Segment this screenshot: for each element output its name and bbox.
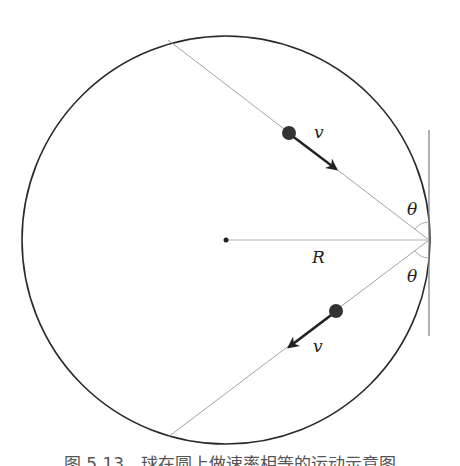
- bounce-diagram: v v θ θ R: [0, 0, 460, 466]
- theta-label-top: θ: [407, 199, 417, 219]
- theta-arc-top: [415, 222, 429, 229]
- velocity-label-bottom: v: [313, 336, 323, 356]
- figure-caption: 图 5.13 球在圆上做速率相等的运动示意图: [0, 452, 460, 466]
- radius-label: R: [311, 247, 325, 267]
- incoming-ball: [282, 126, 296, 140]
- theta-label-bottom: θ: [407, 266, 417, 286]
- outgoing-velocity-arrow: [289, 313, 334, 347]
- velocity-label-top: v: [314, 122, 324, 142]
- theta-arc-bottom: [415, 251, 429, 258]
- center-dot: [224, 238, 229, 243]
- outgoing-ball: [329, 304, 343, 318]
